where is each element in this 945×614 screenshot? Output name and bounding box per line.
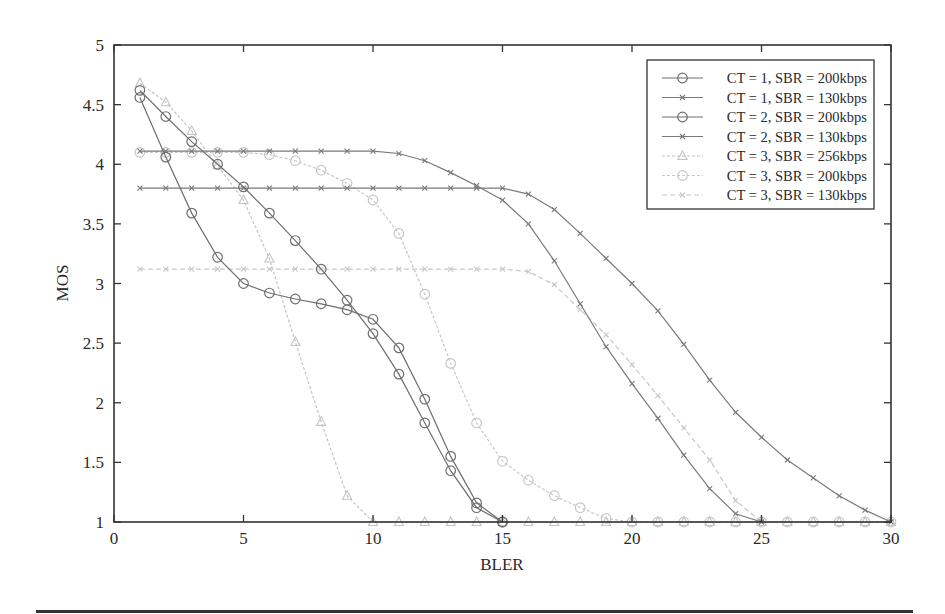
legend: CT = 1, SBR = 200kbpsCT = 1, SBR = 130kb…: [647, 60, 874, 209]
y-tick-label: 1.5: [83, 453, 104, 472]
legend-label: CT = 1, SBR = 200kbps: [727, 70, 868, 86]
data-point-x-icon: [681, 425, 686, 430]
y-tick-label: 4.5: [83, 96, 104, 115]
data-point-x-icon: [500, 198, 505, 203]
data-point-x-icon: [681, 453, 686, 458]
y-tick-label: 4: [96, 155, 105, 174]
data-point-x-icon: [552, 282, 557, 287]
data-point-circle-icon: [135, 93, 145, 103]
y-tick-label: 2.5: [83, 334, 104, 353]
x-tick-label: 20: [624, 529, 641, 548]
data-point-x-icon: [630, 281, 635, 286]
data-point-x-icon: [863, 508, 868, 513]
data-point-x-icon: [707, 486, 712, 491]
data-point-x-icon: [526, 221, 531, 226]
legend-label: CT = 3, SBR = 200kbps: [727, 168, 868, 184]
y-axis-title: MOS: [53, 265, 72, 302]
series-path: [140, 188, 891, 522]
data-point-x-icon: [448, 170, 453, 175]
bottom-rule: [36, 610, 913, 613]
series-line: [137, 186, 893, 525]
data-point-x-icon: [630, 362, 635, 367]
legend-label: CT = 1, SBR = 130kbps: [727, 90, 868, 106]
data-point-circle-icon: [368, 195, 378, 205]
data-point-x-icon: [707, 378, 712, 383]
data-point-x-icon: [604, 256, 609, 261]
data-point-circle-icon: [524, 475, 534, 485]
series-path: [140, 90, 503, 522]
data-point-x-icon: [785, 457, 790, 462]
mos-vs-bler-chart: 05101520253011.522.533.544.55 BLER MOS C…: [0, 0, 945, 614]
y-tick-label: 3: [96, 275, 105, 294]
data-point-x-icon: [578, 307, 583, 312]
data-point-x-icon: [655, 308, 660, 313]
series-line: [135, 93, 507, 527]
x-tick-label: 25: [753, 529, 770, 548]
data-point-x-icon: [604, 332, 609, 337]
data-point-x-icon: [578, 231, 583, 236]
y-tick-label: 2: [96, 394, 105, 413]
data-point-x-icon: [733, 498, 738, 503]
y-tick-label: 3.5: [83, 215, 104, 234]
x-tick-label: 0: [110, 529, 119, 548]
data-point-x-icon: [733, 410, 738, 415]
data-point-x-icon: [811, 475, 816, 480]
x-tick-label: 15: [494, 529, 511, 548]
x-axis-title: BLER: [480, 555, 524, 574]
data-point-x-icon: [552, 258, 557, 263]
x-tick-label: 30: [883, 529, 900, 548]
x-tick-label: 10: [365, 529, 382, 548]
data-point-circle-icon: [550, 491, 560, 501]
legend-label: CT = 2, SBR = 200kbps: [727, 109, 868, 125]
data-point-x-icon: [837, 493, 842, 498]
data-point-x-icon: [759, 435, 764, 440]
x-tick-label: 5: [239, 529, 248, 548]
data-point-x-icon: [655, 416, 660, 421]
data-point-x-icon: [655, 393, 660, 398]
series-path: [140, 98, 503, 523]
y-tick-label: 5: [96, 36, 105, 55]
data-point-x-icon: [604, 344, 609, 349]
series-path: [140, 269, 762, 522]
data-point-x-icon: [630, 381, 635, 386]
data-point-x-icon: [552, 207, 557, 212]
series-line: [137, 267, 764, 525]
legend-label: CT = 3, SBR = 256kbps: [727, 148, 868, 164]
data-point-x-icon: [707, 457, 712, 462]
legend-label: CT = 3, SBR = 130kbps: [727, 187, 868, 203]
data-point-x-icon: [578, 301, 583, 306]
y-tick-label: 1: [96, 513, 105, 532]
data-point-x-icon: [681, 342, 686, 347]
data-point-circle-icon: [316, 165, 326, 175]
legend-label: CT = 2, SBR = 130kbps: [727, 129, 868, 145]
